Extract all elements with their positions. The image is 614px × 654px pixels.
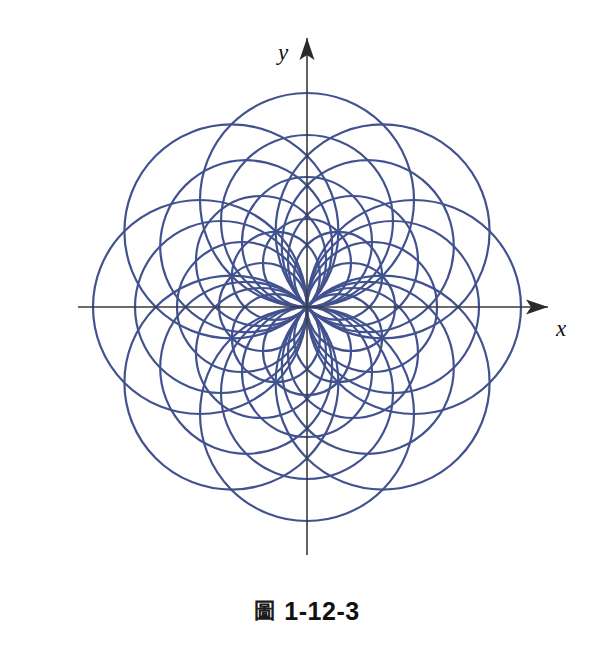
x-axis-label: x xyxy=(555,316,567,341)
figure-cjk-glyph-icon: 圖 xyxy=(254,601,275,622)
y-axis-label: y xyxy=(276,40,289,65)
figure-number-label: 1-12-3 xyxy=(284,599,359,624)
polar-circles-plot: x y xyxy=(0,0,614,600)
figure-caption: 圖 1-12-3 xyxy=(0,588,614,634)
figure-container: x y 圖 1-12-3 xyxy=(0,0,614,654)
